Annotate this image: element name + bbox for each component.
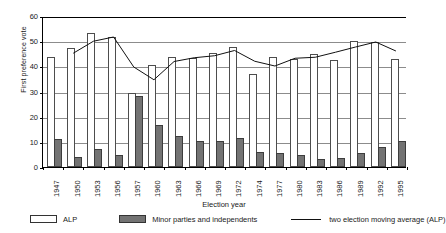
x-tick-label-1953: 1953	[94, 180, 102, 197]
x-tick-mark-8	[205, 167, 206, 170]
x-tick-label-1980: 1980	[296, 180, 304, 197]
y-tick-label-60: 60	[30, 13, 38, 21]
x-tick-mark-2	[83, 167, 84, 170]
x-tick-mark-9	[225, 167, 226, 170]
x-tick-label-1969: 1969	[215, 180, 223, 197]
x-tick-label-1983: 1983	[316, 180, 324, 197]
legend-item-moving-average: two election moving average (ALP)	[291, 215, 445, 224]
y-tick-label-10: 10	[30, 139, 38, 147]
legend-swatch-minor-parties	[119, 215, 146, 223]
x-tick-label-1956: 1956	[114, 180, 122, 197]
x-tick-mark-16	[367, 167, 368, 170]
x-tick-mark-0	[43, 167, 44, 170]
x-tick-mark-12	[286, 167, 287, 170]
x-tick-mark-10	[245, 167, 246, 170]
y-axis-title: First preference vote	[20, 0, 27, 130]
legend-swatch-alp	[30, 215, 57, 223]
chart-legend: ALP Minor parties and independents two e…	[30, 212, 405, 226]
y-tick-label-20: 20	[30, 114, 38, 122]
legend-label-minor-parties: Minor parties and independents	[152, 215, 257, 224]
x-tick-mark-6	[164, 167, 165, 170]
x-tick-mark-17	[387, 167, 388, 170]
x-tick-label-1974: 1974	[256, 180, 264, 197]
x-tick-label-1950: 1950	[74, 180, 82, 197]
x-tick-mark-11	[265, 167, 266, 170]
plot-area: 0102030405060	[42, 17, 406, 168]
y-tick-label-30: 30	[30, 89, 38, 97]
x-tick-mark-5	[144, 167, 145, 170]
x-axis-labels: 1947195019531956195719601963196619691972…	[42, 171, 406, 201]
x-tick-mark-3	[104, 167, 105, 170]
x-tick-mark-14	[326, 167, 327, 170]
x-tick-label-1963: 1963	[175, 180, 183, 197]
x-tick-label-1977: 1977	[276, 180, 284, 197]
x-tick-label-1960: 1960	[154, 180, 162, 197]
y-tick-label-40: 40	[30, 64, 38, 72]
x-tick-label-1957: 1957	[134, 180, 142, 197]
x-axis-title: Election year	[42, 200, 406, 209]
x-tick-label-1947: 1947	[53, 180, 61, 197]
x-tick-mark-18	[407, 167, 408, 170]
legend-label-moving-average: two election moving average (ALP)	[329, 215, 445, 224]
x-tick-label-1995: 1995	[397, 180, 405, 197]
x-tick-label-1986: 1986	[336, 180, 344, 197]
x-tick-label-1966: 1966	[195, 180, 203, 197]
moving-average-polyline	[73, 37, 396, 80]
x-tick-mark-4	[124, 167, 125, 170]
x-tick-mark-13	[306, 167, 307, 170]
y-tick-label-50: 50	[30, 38, 38, 46]
x-tick-mark-7	[185, 167, 186, 170]
x-tick-mark-1	[63, 167, 64, 170]
y-tick-label-0: 0	[34, 164, 38, 172]
x-tick-label-1989: 1989	[357, 180, 365, 197]
legend-item-minor-parties: Minor parties and independents	[119, 215, 257, 224]
plot-inner: 0102030405060	[43, 17, 406, 167]
x-tick-label-1992: 1992	[377, 180, 385, 197]
x-tick-label-1972: 1972	[235, 180, 243, 197]
legend-swatch-moving-average	[291, 215, 321, 223]
legend-label-alp: ALP	[63, 215, 77, 224]
legend-item-alp: ALP	[30, 215, 77, 224]
x-tick-mark-15	[346, 167, 347, 170]
moving-average-line	[43, 17, 406, 167]
